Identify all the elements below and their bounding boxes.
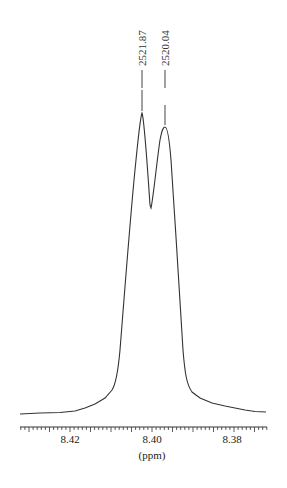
x-axis-title: (ppm) xyxy=(139,449,166,461)
spectrum-trace xyxy=(20,113,266,414)
tick-label-8.38: 8.38 xyxy=(222,433,241,445)
nmr-spectrum-plot xyxy=(0,0,287,488)
peak1-label: 2521.87 xyxy=(136,30,148,66)
x-axis-ticks xyxy=(21,427,267,432)
peak2-label: 2520.04 xyxy=(159,30,171,66)
tick-label-8.40: 8.40 xyxy=(142,433,161,445)
tick-label-8.42: 8.42 xyxy=(60,433,79,445)
